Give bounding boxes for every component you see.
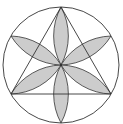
geometry-diagram	[0, 0, 123, 124]
center-point	[60, 64, 62, 66]
